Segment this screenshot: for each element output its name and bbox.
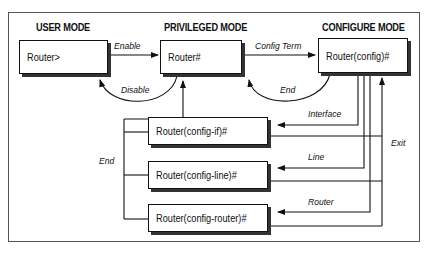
configure-mode-prompt: Router(config)# — [326, 50, 389, 61]
config-line-box: Router(config-line)# — [148, 161, 268, 189]
privileged-mode-title: PRIVILEGED MODE — [164, 22, 247, 33]
config-if-box: Router(config-if)# — [148, 117, 268, 145]
cisco-router-modes-diagram: USER MODE PRIVILEGED MODE CONFIGURE MODE… — [0, 0, 432, 253]
exit-label: Exit — [391, 137, 405, 148]
user-mode-prompt: Router> — [27, 52, 60, 63]
config-router-box: Router(config-router)# — [148, 204, 268, 232]
user-mode-box: Router> — [19, 40, 108, 74]
privileged-mode-prompt: Router# — [168, 52, 201, 63]
user-mode-title: USER MODE — [36, 22, 90, 33]
configure-mode-box: Router(config)# — [318, 38, 408, 73]
disable-label: Disable — [121, 84, 150, 95]
config-term-label: Config Term — [255, 40, 301, 51]
router-label: Router — [308, 196, 334, 207]
privileged-mode-box: Router# — [160, 40, 242, 74]
end-submodes-label: End — [99, 155, 114, 166]
config-router-prompt: Router(config-router)# — [156, 213, 247, 224]
enable-label: Enable — [114, 40, 141, 51]
interface-label: Interface — [308, 108, 341, 119]
configure-mode-title: CONFIGURE MODE — [322, 22, 405, 33]
config-line-prompt: Router(config-line)# — [156, 170, 237, 181]
config-if-prompt: Router(config-if)# — [156, 126, 227, 137]
line-label: Line — [308, 151, 324, 162]
end-config-label: End — [280, 84, 295, 95]
